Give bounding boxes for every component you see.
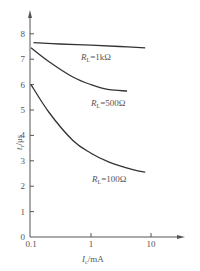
- x-axis-arrow-icon: [177, 235, 185, 239]
- curve-label: RL=1kΩ: [80, 52, 111, 63]
- x-ticks: 0.1110: [25, 233, 156, 249]
- y-tick-label: 2: [21, 181, 26, 191]
- x-axis-title: Ic/mA: [81, 254, 104, 265]
- y-tick-label: 8: [21, 29, 26, 39]
- y-tick-label: 5: [21, 105, 26, 115]
- axes: [28, 10, 185, 239]
- y-axis-title: tr/μs: [14, 134, 25, 150]
- y-axis-arrow-icon: [28, 10, 32, 18]
- y-tick-label: 3: [21, 156, 26, 166]
- curve-series-2: [31, 85, 145, 173]
- curve-label: RL=500Ω: [90, 98, 126, 109]
- curve-series-1: [31, 48, 127, 91]
- curve-series-0: [34, 43, 146, 48]
- y-tick-label: 1: [21, 207, 26, 217]
- curve-label: RL=100Ω: [91, 174, 127, 185]
- rise-time-chart: 012345678 0.1110 RL=1kΩRL=500ΩRL=100Ω tr…: [0, 0, 200, 271]
- x-tick-label: 10: [147, 239, 157, 249]
- curve-labels: RL=1kΩRL=500ΩRL=100Ω: [80, 52, 127, 185]
- y-tick-label: 7: [21, 54, 26, 64]
- x-tick-label: 1: [89, 239, 94, 249]
- y-tick-label: 6: [21, 80, 26, 90]
- x-tick-label: 0.1: [25, 239, 36, 249]
